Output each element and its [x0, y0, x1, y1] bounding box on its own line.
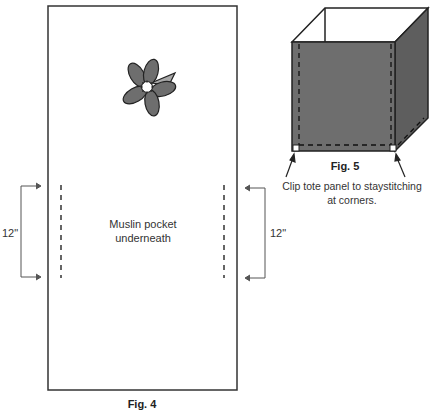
right-dimension-bracket	[245, 185, 265, 281]
fig5-instruction: Clip tote panel to staystitching at corn…	[268, 179, 436, 207]
right-dimension-label: 12"	[268, 226, 288, 240]
left-corner-clip	[293, 145, 299, 151]
tote-panel-outline	[48, 6, 237, 390]
left-dimension-bracket	[21, 183, 41, 280]
fig5-caption: Fig. 5	[325, 160, 365, 172]
right-corner-clip	[390, 145, 396, 151]
pocket-label-line1: Muslin pocket	[98, 217, 188, 231]
fig5-instruction-line1: Clip tote panel to staystitching	[268, 179, 436, 193]
fig4-caption: Fig. 4	[112, 398, 172, 410]
fig5-instruction-line2: at corners.	[268, 193, 436, 207]
pocket-label: Muslin pocket underneath	[98, 217, 188, 245]
left-clip-arrow	[286, 154, 295, 177]
tote-cube-illustration	[292, 8, 428, 151]
right-clip-arrow	[395, 154, 405, 177]
pocket-label-line2: underneath	[98, 231, 188, 245]
left-dimension-label: 12"	[0, 226, 20, 240]
